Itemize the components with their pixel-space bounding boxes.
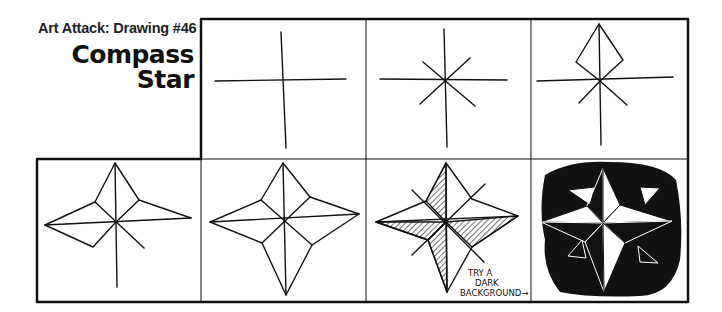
step-1-drawing	[215, 32, 346, 148]
step-7-drawing	[541, 162, 681, 297]
annotation-note: TRY A DARK BACKGROUND→	[460, 268, 528, 298]
svg-text:BACKGROUND→: BACKGROUND→	[460, 288, 528, 298]
step-3-drawing	[537, 24, 673, 145]
svg-text:TRY A: TRY A	[467, 268, 492, 278]
step-6-drawing	[376, 163, 518, 292]
step-5-drawing	[210, 163, 359, 295]
step-4-drawing	[45, 163, 191, 287]
drawing-steps-grid: TRY A DARK BACKGROUND→	[0, 0, 722, 312]
step-2-drawing	[380, 29, 507, 147]
svg-text:DARK: DARK	[475, 278, 499, 288]
